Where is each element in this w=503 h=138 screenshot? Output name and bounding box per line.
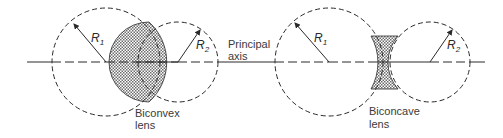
biconvex-label-line1: Biconvex — [135, 107, 180, 119]
biconvex-label-line2: lens — [135, 119, 156, 131]
biconcave-r1-label: R1 — [314, 31, 327, 47]
biconcave-r2-label: R2 — [447, 38, 461, 54]
biconvex-group: R1 R2 Biconvex lens — [52, 8, 218, 131]
biconcave-label-line2: lens — [369, 118, 390, 130]
biconcave-group: R1 R2 Biconcave lens — [275, 8, 470, 130]
diagram-canvas: R1 R2 Biconvex lens R1 R2 Biconcave lens — [0, 0, 503, 138]
biconvex-r2-label: R2 — [196, 38, 210, 54]
lens-diagram: R1 R2 Biconvex lens R1 R2 Biconcave lens — [0, 0, 503, 138]
principal-axis-label-line1: Principal — [228, 38, 270, 50]
biconvex-r1-label: R1 — [91, 31, 104, 47]
biconcave-label-line1: Biconcave — [369, 105, 420, 117]
principal-axis-label-line2: axis — [228, 50, 248, 62]
